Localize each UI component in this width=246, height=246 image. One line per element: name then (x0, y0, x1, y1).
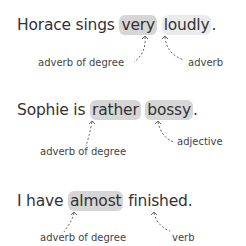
label-adverb: adverb (188, 57, 223, 68)
highlighted-word-adverb: loudly (162, 15, 212, 35)
period: . (188, 192, 193, 210)
highlighted-word-adverb-of-degree: almost (68, 191, 123, 211)
label-adverb-of-degree: adverb of degree (38, 57, 124, 68)
period: . (211, 16, 216, 34)
label-adjective: adjective (177, 136, 223, 147)
word-verb: finished (128, 192, 188, 210)
example-sentence-2: Sophie is rather bossy. (17, 101, 198, 119)
highlighted-word-adjective: bossy (145, 100, 193, 120)
highlighted-word-adverb-of-degree: very (119, 15, 156, 35)
space (157, 16, 162, 34)
sentence-text: Sophie is (17, 101, 90, 119)
highlighted-word-adverb-of-degree: rather (90, 100, 140, 120)
example-sentence-3: I have almost finished. (17, 192, 192, 210)
label-adverb-of-degree: adverb of degree (40, 146, 126, 157)
example-sentence-1: Horace sings very loudly. (17, 16, 216, 34)
period: . (193, 101, 198, 119)
sentence-text: Horace sings (17, 16, 119, 34)
label-adverb-of-degree: adverb of degree (40, 232, 126, 243)
sentence-text: I have (17, 192, 68, 210)
label-verb: verb (172, 232, 195, 243)
